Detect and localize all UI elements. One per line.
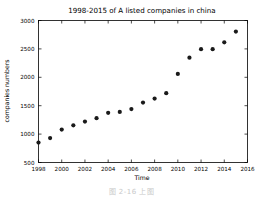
- x-tick-label: 1998: [31, 166, 46, 172]
- x-tick-label: 2014: [217, 166, 232, 172]
- x-axis-ticks: [39, 21, 248, 163]
- x-axis-label: Time: [133, 174, 149, 181]
- scatter-chart: 1998200020022004200620082010201220142016…: [0, 0, 263, 203]
- x-tick-label: 2012: [194, 166, 208, 172]
- x-tick-label: 2006: [124, 166, 139, 172]
- data-point: [48, 136, 52, 140]
- y-tick-label: 1000: [20, 131, 35, 137]
- data-point: [141, 100, 145, 104]
- y-tick-label: 1500: [20, 103, 35, 109]
- data-point: [36, 140, 40, 144]
- y-tick-label: 2000: [20, 74, 35, 80]
- figure-container: 1998200020022004200620082010201220142016…: [0, 0, 263, 203]
- data-point: [176, 72, 180, 76]
- y-axis-tick-labels: 50010001500200025003000: [20, 18, 35, 166]
- x-tick-label: 2016: [240, 166, 255, 172]
- data-point: [211, 47, 215, 51]
- x-tick-label: 2000: [55, 166, 70, 172]
- data-point: [199, 47, 203, 51]
- data-point: [83, 120, 87, 124]
- data-point: [118, 110, 122, 114]
- data-point: [234, 29, 238, 33]
- data-point: [71, 123, 75, 127]
- data-point-series: [36, 29, 238, 144]
- x-tick-label: 2010: [171, 166, 186, 172]
- data-point: [60, 127, 64, 131]
- x-axis-tick-labels: 1998200020022004200620082010201220142016: [31, 166, 255, 172]
- x-tick-label: 2004: [101, 166, 116, 172]
- x-tick-label: 2008: [147, 166, 162, 172]
- data-point: [222, 40, 226, 44]
- data-point: [129, 107, 133, 111]
- data-point: [153, 97, 157, 101]
- y-tick-label: 2500: [20, 46, 35, 52]
- data-point: [94, 116, 98, 120]
- data-point: [106, 111, 110, 115]
- y-tick-label: 3000: [20, 18, 35, 24]
- chart-title: 1998-2015 of A listed companies in china: [68, 6, 215, 15]
- y-tick-label: 500: [24, 160, 35, 166]
- y-axis-ticks: [39, 21, 248, 163]
- plot-frame: [39, 21, 248, 163]
- y-axis-label: companies numbers: [3, 60, 11, 123]
- data-point: [164, 91, 168, 95]
- data-point: [187, 56, 191, 60]
- figure-caption: 图 2-16 上图: [0, 186, 263, 196]
- x-tick-label: 2002: [78, 166, 92, 172]
